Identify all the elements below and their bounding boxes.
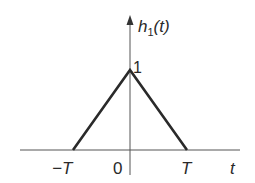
x-tick-label-T: T xyxy=(181,159,193,178)
x-axis-label: t xyxy=(230,159,236,178)
plot: h1(t) 1 −T 0 T t xyxy=(0,0,255,183)
y-tick-label-1: 1 xyxy=(133,59,142,76)
y-axis-arrow-icon xyxy=(127,15,134,25)
x-tick-label-0: 0 xyxy=(113,159,122,178)
y-axis-label: h1(t) xyxy=(138,17,170,38)
x-tick-label-neg-T: −T xyxy=(52,159,74,178)
